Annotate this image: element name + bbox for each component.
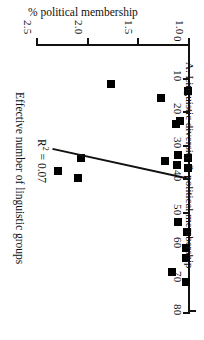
x-tick-label-30: 30 [172,137,184,148]
x-tick-label-50: 50 [172,204,184,215]
y-tick-label-2.0: 2.0 [73,20,85,34]
x-axis-title: % political membership [28,6,138,18]
r-squared-exponent: 2 [41,146,50,150]
x-tick-label-0: 0 [172,36,184,42]
panel-caption: A. Linguistic diversity & political memb… [184,62,196,269]
x-tick-label-10: 10 [172,70,184,81]
figure-panel: % political membership A. Linguistic div… [0,0,204,340]
r-squared-value: = 0.07 [36,153,48,183]
x-tick-label-60: 60 [172,237,184,248]
y-tick-label-2.5: 2.5 [22,20,34,34]
x-tick-label-70: 70 [172,271,184,282]
y-tick-label-1.5: 1.5 [123,20,135,34]
y-axis-title: Effective number of linguistic groups [14,92,26,264]
x-tick-label-80: 80 [172,304,184,315]
chart-labels: % political membership A. Linguistic div… [0,0,204,340]
r-squared-annotation: R2 = 0.07 [36,139,50,183]
x-tick-label-20: 20 [172,103,184,114]
x-tick-label-40: 40 [172,170,184,181]
r-squared-symbol: R [36,139,48,147]
y-tick-label-1.0: 1.0 [174,20,186,34]
